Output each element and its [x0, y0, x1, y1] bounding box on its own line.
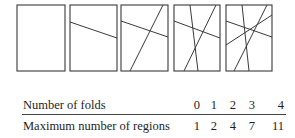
folds-value-4: 4: [270, 99, 284, 112]
fold-line: [130, 5, 163, 71]
fold-line: [174, 21, 220, 38]
fold-panel-1: [70, 5, 117, 71]
row-label-folds: Number of folds: [23, 99, 106, 112]
fold-panel-2: [121, 5, 168, 71]
panel-border: [121, 5, 168, 71]
panel-border: [226, 5, 272, 71]
regions-value-2: 4: [222, 120, 236, 133]
folds-value-1: 1: [203, 99, 217, 112]
folding-diagram: [0, 0, 295, 80]
fold-panel-4: [226, 5, 272, 71]
fold-line: [190, 5, 198, 71]
fold-panel-3: [174, 5, 220, 71]
fold-line: [242, 5, 249, 71]
regions-value-3: 7: [241, 120, 255, 133]
folds-value-3: 3: [241, 99, 255, 112]
fold-line: [121, 21, 168, 37]
regions-value-1: 2: [203, 120, 217, 133]
folds-value-2: 2: [222, 99, 236, 112]
fold-line: [184, 5, 216, 71]
fold-panel-0: [17, 5, 65, 71]
fold-line: [70, 22, 117, 38]
panel-border: [17, 5, 65, 71]
regions-value-4: 11: [270, 120, 284, 133]
table-rule: [22, 114, 286, 115]
fold-line: [226, 21, 272, 37]
fold-line: [234, 5, 267, 71]
panel-border: [70, 5, 117, 71]
regions-value-0: 1: [186, 120, 200, 133]
row-label-regions: Maximum number of regions: [23, 120, 170, 133]
folds-value-0: 0: [186, 99, 200, 112]
